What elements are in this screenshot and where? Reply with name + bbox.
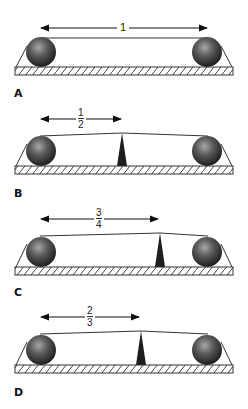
panel-label-a: A (14, 87, 23, 100)
right-ball (192, 136, 222, 166)
hatched-plate (15, 365, 233, 373)
panel-label-c: C (14, 286, 22, 299)
right-slant (221, 342, 232, 365)
hatched-plate (15, 166, 233, 174)
panel-label-b: B (14, 187, 22, 200)
left-slant (16, 244, 27, 267)
denominator: 3 (87, 317, 93, 328)
panel-b (15, 119, 233, 174)
numerator: 3 (96, 207, 102, 218)
left-ball (26, 237, 56, 267)
fulcrum (117, 133, 127, 166)
right-ball (192, 335, 222, 365)
right-ball (192, 237, 222, 267)
right-slant (221, 46, 232, 67)
panel-a (15, 28, 233, 75)
right-slant (221, 244, 232, 267)
ratio-fraction-b: 1 2 (76, 108, 86, 129)
fulcrum (155, 233, 165, 267)
fulcrum (136, 331, 146, 365)
string-line (40, 331, 208, 334)
panel-label-d: D (14, 386, 23, 399)
ratio-fraction-c: 3 4 (94, 208, 104, 229)
right-slant (221, 144, 232, 166)
left-slant (16, 144, 27, 166)
string-line (40, 233, 208, 236)
numerator: 2 (87, 305, 93, 316)
lever-diagram (0, 0, 248, 409)
panel-c (15, 219, 233, 275)
denominator: 2 (78, 119, 84, 130)
hatched-plate (15, 267, 233, 275)
panel-d (15, 317, 233, 373)
left-slant (16, 46, 27, 67)
hatched-plate (15, 67, 233, 75)
left-ball (26, 37, 56, 67)
string-line (40, 133, 208, 136)
ratio-fraction-d: 2 3 (85, 306, 95, 327)
left-ball (26, 136, 56, 166)
denominator: 4 (96, 219, 102, 230)
ratio-label-a: 1 (117, 22, 129, 33)
right-ball (192, 37, 222, 67)
left-slant (16, 342, 27, 365)
numerator: 1 (78, 107, 84, 118)
left-ball (26, 335, 56, 365)
